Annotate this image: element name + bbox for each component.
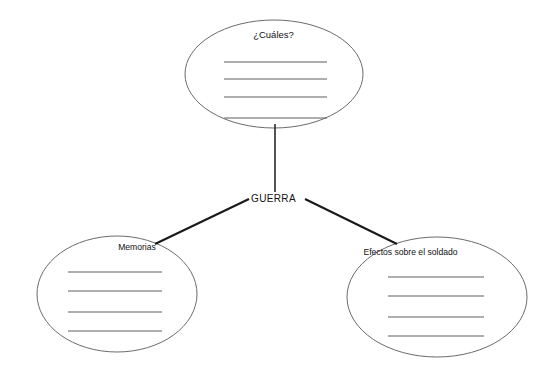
concept-map-canvas: ¿Cuáles? GUERRA Memorias Efectos sobre e… — [0, 0, 547, 373]
edge-guerra-to-memorias — [155, 199, 249, 244]
node-label-guerra: GUERRA — [0, 194, 547, 204]
node-label-efectos: Efectos sobre el soldado — [274, 248, 547, 257]
concept-map-graphic — [0, 0, 547, 373]
node-label-memorias: Memorias — [0, 243, 274, 252]
node-label-cuales: ¿Cuáles? — [0, 30, 547, 40]
node-ellipse-memorias[interactable] — [37, 236, 197, 352]
edge-guerra-to-efectos — [305, 199, 397, 244]
